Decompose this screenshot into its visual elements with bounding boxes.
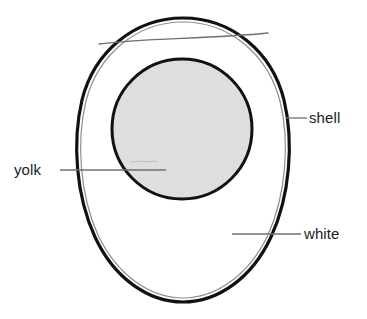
diagram-canvas: shell white yolk bbox=[0, 0, 367, 319]
label-shell: shell bbox=[309, 110, 340, 125]
yolk-shape bbox=[112, 59, 252, 199]
egg-cross-section-illustration bbox=[0, 0, 367, 319]
label-yolk: yolk bbox=[14, 162, 41, 177]
label-white: white bbox=[304, 226, 340, 241]
yolk-texture-mark bbox=[131, 161, 157, 162]
